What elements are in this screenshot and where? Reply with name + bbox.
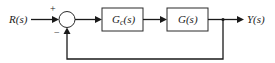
input-label: R(s) [8, 13, 28, 26]
minus-sign: − [54, 27, 60, 38]
plant-label: G(s) [178, 13, 198, 26]
feedback-arrow-icon [64, 28, 71, 35]
gc-input-arrow-icon [95, 16, 102, 23]
summing-junction [59, 12, 75, 28]
plus-sign: + [50, 3, 56, 14]
controller-label: Gc(s) [112, 13, 135, 27]
output-arrow-icon [237, 16, 244, 23]
output-label: Y(s) [247, 13, 265, 26]
g-input-arrow-icon [160, 16, 167, 23]
input-arrow-icon [52, 16, 59, 23]
block-diagram: R(s) + − Gc(s) G(s) Y(s) [0, 0, 275, 63]
